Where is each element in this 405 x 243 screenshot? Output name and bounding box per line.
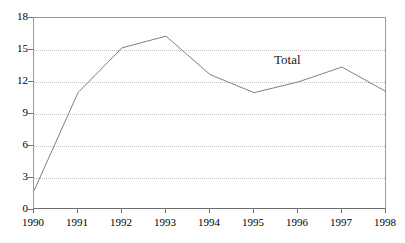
y-tick-label-0: 0: [4, 203, 28, 214]
y-tick-label-6: 6: [4, 139, 28, 150]
line-chart: 0369121518 Total 19901991199219931994199…: [0, 0, 405, 243]
x-axis-tick-marks: [33, 209, 386, 214]
x-tick-mark-1992: [121, 209, 122, 213]
series-label-total: Total: [274, 53, 301, 67]
x-tick-mark-1990: [33, 209, 34, 213]
x-tick-mark-1998: [385, 209, 386, 213]
y-tick-label-9: 9: [4, 107, 28, 118]
y-tick-label-12: 12: [4, 75, 28, 86]
x-tick-mark-1994: [209, 209, 210, 213]
y-tick-label-15: 15: [4, 43, 28, 54]
x-tick-label-1998: 1998: [355, 216, 405, 228]
y-axis-tick-labels: 0369121518: [0, 17, 28, 209]
series-line-total: [34, 18, 387, 210]
x-tick-mark-1991: [77, 209, 78, 213]
y-tick-label-3: 3: [4, 171, 28, 182]
x-axis-tick-labels: 199019911992199319941995199619971998: [33, 216, 386, 232]
x-tick-mark-1996: [297, 209, 298, 213]
x-tick-mark-1993: [165, 209, 166, 213]
y-tick-label-18: 18: [4, 11, 28, 22]
x-tick-mark-1997: [341, 209, 342, 213]
plot-area: Total: [33, 17, 386, 209]
x-tick-mark-1995: [253, 209, 254, 213]
